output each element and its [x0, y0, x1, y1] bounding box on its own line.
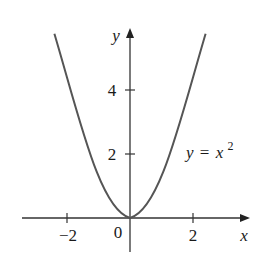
- function-annotation: y = x 2: [184, 139, 233, 162]
- y-tick-label-4: 4: [108, 81, 117, 100]
- annotation-lhs: y: [184, 143, 194, 162]
- annotation-exp: 2: [227, 139, 233, 153]
- y-axis-label: y: [110, 26, 120, 45]
- annotation-base: x: [215, 143, 224, 162]
- y-axis-arrow-icon: [126, 28, 134, 38]
- x-axis-arrow-icon: [240, 214, 250, 222]
- x-axis-label: x: [239, 226, 248, 245]
- x-tick-label-2: 2: [189, 226, 198, 245]
- x-tick-label-0: 0: [114, 223, 123, 242]
- parabola-chart: −2 0 2 2 4 x y y = x 2: [0, 0, 256, 262]
- annotation-eq: =: [200, 143, 210, 162]
- x-tick-label-neg2: −2: [59, 226, 77, 245]
- y-tick-label-2: 2: [108, 145, 117, 164]
